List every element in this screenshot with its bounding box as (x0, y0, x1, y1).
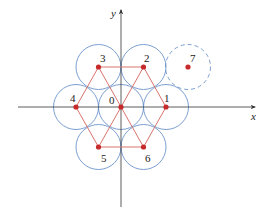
point-1 (163, 104, 168, 109)
point-2 (141, 64, 146, 69)
point-label-3: 3 (100, 52, 106, 64)
y-axis-label: y (110, 7, 116, 19)
edge-5-4 (76, 107, 99, 147)
point-4 (73, 104, 78, 109)
point-label-4: 4 (70, 92, 76, 104)
point-label-1: 1 (164, 92, 170, 104)
axes: x y (18, 7, 256, 207)
point-3 (96, 64, 101, 69)
edge-1-6 (144, 107, 167, 147)
point-6 (141, 144, 146, 149)
lattice-diagram: x y 01234567 (0, 0, 275, 220)
point-label-2: 2 (144, 52, 150, 64)
x-axis-label: x (250, 110, 256, 122)
point-label-7: 7 (190, 52, 196, 64)
edge-4-3 (76, 67, 99, 107)
point-label-0: 0 (109, 94, 115, 106)
point-label-6: 6 (145, 152, 151, 164)
point-5 (96, 144, 101, 149)
point-label-5: 5 (101, 152, 107, 164)
point-7 (185, 64, 190, 69)
edge-2-1 (144, 67, 167, 107)
point-0 (118, 104, 123, 109)
